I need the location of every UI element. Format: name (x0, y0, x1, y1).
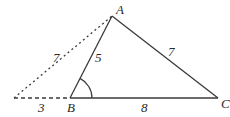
side-ac (112, 16, 218, 98)
side-label-ac: 7 (168, 44, 175, 59)
side-ab (70, 16, 112, 98)
triangle-diagram: A B C 7 5 7 8 3 (0, 0, 230, 117)
side-label-ad: 7 (53, 50, 60, 65)
vertex-label-c: C (221, 96, 230, 111)
side-label-db: 3 (37, 100, 45, 115)
side-label-ab: 5 (95, 50, 102, 65)
side-label-bc: 8 (141, 100, 148, 115)
angle-arc-b (80, 78, 92, 98)
vertex-label-b: B (67, 100, 75, 115)
vertex-label-a: A (115, 2, 124, 17)
